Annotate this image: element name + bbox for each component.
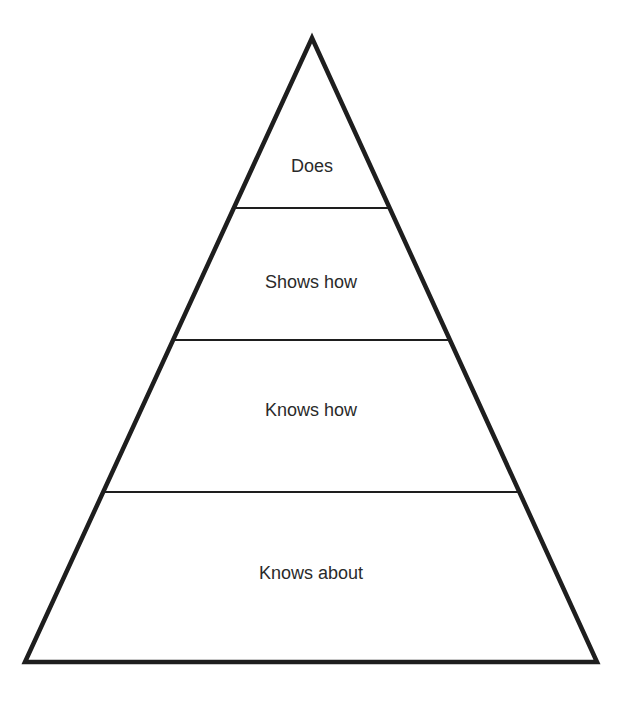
pyramid-diagram: Does Shows how Knows how Knows about [0,0,624,709]
level-label-knows-how: Knows how [265,400,358,420]
level-label-does: Does [291,156,333,176]
level-label-knows-about: Knows about [259,563,363,583]
level-label-shows-how: Shows how [265,272,358,292]
